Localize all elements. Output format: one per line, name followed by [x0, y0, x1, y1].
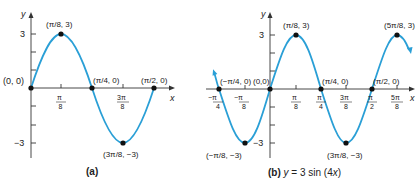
x-tick-neg-pi4-den: 4 [216, 103, 220, 110]
y-tick-neg3: −3 [14, 138, 24, 148]
label-origin: (0, 0) [3, 76, 24, 86]
point-trough-3pi8 [343, 140, 348, 145]
x-tick-pi8-den: 8 [59, 103, 63, 110]
x-axis-arrow-icon [169, 86, 175, 91]
x-tick-pi8-den: 8 [294, 103, 298, 110]
x-tick-3pi8-num: 3π [117, 94, 126, 101]
x-axis-label: x [409, 93, 415, 103]
label-peak-1: (π/8, 3) [283, 21, 310, 30]
x-tick-pi8-num: π [57, 94, 62, 101]
label-trough: (3π/8, −3) [103, 150, 139, 159]
x-tick-pi2-num: π [368, 94, 373, 101]
x-tick-3pi8-den: 8 [121, 103, 125, 110]
panel-a-chart: y x 3 −3 π 8 3π 8 (0, 0) (π/8, 3) (π/4, … [3, 9, 175, 177]
x-axis-arrow-icon [409, 87, 415, 92]
point-trough-neg [242, 140, 247, 145]
label-peak-2: (5π/8, 3) [384, 21, 415, 30]
label-trough-neg: (−π/8, −3) [206, 151, 242, 160]
label-zero-pi2: (π/2, 0) [141, 76, 168, 85]
point-zero-pi2 [151, 85, 156, 90]
figure: y x 3 −3 π 8 3π 8 (0, 0) (π/8, 3) (π/4, … [0, 0, 419, 181]
y-axis-arrow-icon [29, 12, 34, 18]
curve-arrow-right-icon [407, 47, 413, 54]
x-tick-pi4-num: π [317, 94, 322, 101]
point-neg-pi4 [216, 86, 221, 91]
x-tick-neg-pi4-num: −π [208, 94, 217, 101]
caption-a: (a) [86, 166, 98, 177]
x-tick-3pi8-num: 3π [340, 94, 349, 101]
y-axis-arrow-icon [268, 12, 273, 18]
point-zero-pi4-b [318, 86, 323, 91]
x-tick-neg-pi8-num: −π [234, 94, 243, 101]
y-axis-label: y [260, 9, 266, 19]
x-tick-5pi8-den: 8 [395, 103, 399, 110]
point-peak [58, 31, 63, 36]
point-peak-1 [293, 32, 298, 37]
x-tick-neg-pi8-den: 8 [242, 103, 246, 110]
x-tick-pi2-den: 2 [370, 103, 374, 110]
x-axis-label: x [169, 93, 175, 103]
x-tick-5pi8-num: 5π [391, 94, 400, 101]
point-origin-b [267, 86, 272, 91]
y-tick-3: 3 [259, 30, 264, 40]
panel-b-chart: y x 3 −3 −π 4 −π 8 π 8 π 4 3π 8 π 2 5π [206, 9, 415, 178]
label-peak: (π/8, 3) [46, 20, 73, 29]
y-tick-neg3: −3 [253, 138, 263, 148]
caption-b: (b) y = 3 sin (4x) [268, 167, 341, 178]
label-zero-pi2-b: (π/2, 0) [373, 77, 400, 86]
label-neg-pi4: (−π/4, 0) [220, 77, 251, 86]
point-peak-2 [394, 32, 399, 37]
label-trough-3pi8: (3π/8, −3) [327, 151, 363, 160]
label-origin-b: (0,0) [253, 77, 270, 86]
y-tick-3: 3 [20, 29, 25, 39]
curve-arrow-left-icon [211, 68, 218, 75]
y-axis-label: y [20, 9, 26, 19]
label-zero-pi4: (π/4, 0) [93, 76, 120, 85]
x-tick-3pi8-den: 8 [344, 103, 348, 110]
label-zero-pi4-b: (π/4, 0) [322, 77, 349, 86]
point-origin [28, 85, 33, 90]
point-zero-pi2-b [369, 86, 374, 91]
x-tick-pi8-num: π [292, 94, 297, 101]
point-trough [120, 140, 125, 145]
x-tick-pi4-den: 4 [319, 103, 323, 110]
point-zero-pi4 [89, 85, 94, 90]
